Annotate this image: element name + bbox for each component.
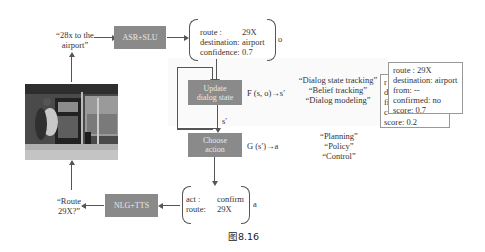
update-dialog-state-box: Updatedialog state [188,80,242,105]
arrow-asr-to-observation [167,37,185,38]
user-photo [25,84,118,160]
arrow-update-to-choose [217,105,218,129]
state-label: s′ [222,116,227,126]
policy-function: G (s′)→a [247,141,278,151]
arrow-observation-to-update [216,59,217,80]
system-utterance: “Route 29X?” [52,196,86,216]
asr-slu-box: ASR+SLU [114,26,166,49]
state-aliases: “Dialog state tracking” “Belief tracking… [296,75,380,105]
arrow-nlg-to-utterance [85,205,104,206]
state-function: F (s, o)→s′ [247,88,285,98]
arrow-user-to-utterance [71,56,72,82]
nlg-tts-box: NLG+TTS [105,194,158,217]
arrow-loop-into-update [212,67,213,80]
loop-bottom-connector [177,128,217,129]
user-utterance: “28x to the airport” [50,30,100,50]
choose-action-box: Chooseaction [188,133,242,157]
action-fields: act :confirm route:29X [186,194,244,214]
belief-card-front: route : 29X destination: airport from: -… [388,62,463,114]
arrow-utterance-to-asr [94,37,113,38]
arrow-action-to-nlg [162,205,180,206]
observation-bracket-right [267,19,276,61]
policy-aliases: “Planning” “Policy” “Control” [314,131,364,161]
observation-label: o [278,34,282,44]
action-label: a [253,199,257,209]
observation-bracket-left [189,19,198,61]
observation-fields: route :29X destination:airport confidenc… [200,27,265,57]
figure-caption: 图8.16 [228,229,259,243]
bus-stop-scene-icon [25,84,118,160]
arrow-utterance-to-user [71,164,72,190]
arrow-choose-to-action [214,157,215,182]
